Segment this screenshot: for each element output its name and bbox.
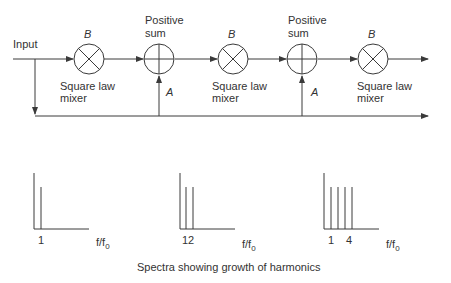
mixer-3-caption: Square law — [357, 80, 412, 92]
mixer-2-caption: Square law — [212, 80, 267, 92]
mixer-2-caption-2: mixer — [212, 92, 239, 104]
mixer-icon — [218, 44, 248, 74]
sum-1-input-a-label: A — [166, 86, 173, 98]
spectrum-panel-2 — [180, 173, 235, 229]
mixer-1-label: B — [84, 28, 91, 40]
sum-icon — [144, 44, 174, 74]
block-diagram — [0, 0, 451, 283]
sum-2-input-a-label: A — [311, 86, 318, 98]
spectra-caption: Spectra showing growth of harmonics — [137, 261, 320, 273]
spectrum-2-axis-label: f/f0 — [242, 238, 256, 255]
spectrum-1-tick: 1 — [38, 234, 44, 246]
mixer-3-label: B — [368, 28, 375, 40]
mixer-1-caption: Square law — [60, 80, 115, 92]
spectrum-3-axis-label: f/f0 — [386, 238, 400, 255]
mixer-icon — [358, 44, 388, 74]
spectrum-3-tick-left: 1 — [328, 234, 334, 246]
mixer-1-caption-2: mixer — [60, 92, 87, 104]
mixer-3-caption-2: mixer — [357, 92, 384, 104]
spectrum-3-tick-right: 4 — [346, 234, 352, 246]
spectrum-1-axis-label: f/f0 — [96, 236, 110, 253]
spectrum-panel-3 — [324, 173, 379, 229]
sum-2-label: Positive — [288, 14, 327, 26]
sum-icon — [287, 44, 317, 74]
sum-1-label-2: sum — [145, 27, 166, 39]
spectrum-panel-1 — [34, 173, 89, 229]
sum-1-label: Positive — [145, 14, 184, 26]
sum-2-label-2: sum — [288, 27, 309, 39]
mixer-2-label: B — [228, 28, 235, 40]
input-label: Input — [13, 38, 37, 50]
mixer-icon — [74, 44, 104, 74]
spectrum-2-tick: 12 — [182, 234, 194, 246]
